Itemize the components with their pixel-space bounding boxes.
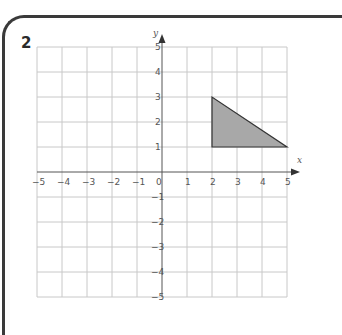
- x-tick-label: 3: [235, 177, 241, 187]
- y-tick-label: 3: [155, 92, 161, 102]
- x-tick-label: 2: [210, 177, 216, 187]
- x-tick-label: 5: [285, 177, 291, 187]
- x-tick-label: −4: [57, 177, 71, 187]
- x-axis-arrow-icon: [291, 169, 300, 176]
- x-tick-label: 0: [156, 177, 162, 187]
- y-tick-label: −3: [151, 242, 164, 252]
- x-tick-label: −3: [82, 177, 95, 187]
- y-tick-label: 2: [155, 117, 161, 127]
- y-tick-label: 1: [155, 142, 161, 152]
- y-tick-label: −1: [151, 192, 164, 202]
- y-tick-label: −2: [151, 217, 164, 227]
- x-tick-label: −1: [132, 177, 145, 187]
- x-tick-label: −2: [107, 177, 120, 187]
- x-tick-label: −5: [32, 177, 45, 187]
- y-tick-label: −5: [151, 292, 164, 302]
- y-axis-label: y: [152, 28, 159, 38]
- x-axis-label: x: [297, 155, 302, 165]
- x-tick-label: 1: [185, 177, 191, 187]
- y-tick-label: −4: [151, 267, 165, 277]
- x-tick-label: 4: [260, 177, 266, 187]
- y-tick-label: 5: [155, 42, 161, 52]
- y-tick-label: 4: [155, 67, 161, 77]
